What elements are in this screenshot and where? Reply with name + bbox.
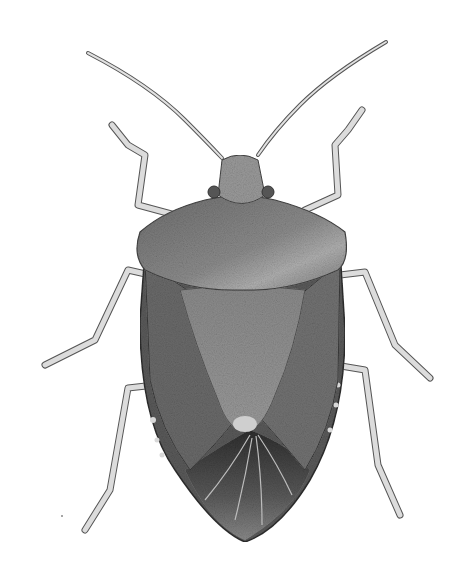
stink-bug-illustration — [0, 0, 469, 578]
head — [218, 155, 265, 204]
scutellum-tip — [233, 416, 257, 432]
left-antenna — [88, 53, 222, 158]
illustration-canvas — [0, 0, 469, 578]
right-antenna — [258, 42, 386, 155]
right-eye — [262, 186, 274, 198]
left-eye — [208, 186, 220, 198]
speck — [61, 515, 63, 517]
